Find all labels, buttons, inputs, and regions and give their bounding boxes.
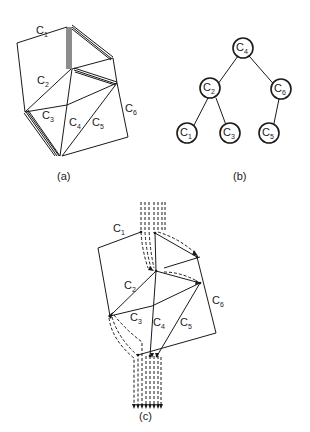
- label-c3: C3: [42, 109, 54, 123]
- label-c2: C2: [124, 279, 136, 293]
- tree-node-c6: C6: [271, 79, 291, 99]
- label-c4: C4: [153, 316, 165, 330]
- label-c3: C3: [130, 311, 142, 325]
- tree-node-c2: C2: [200, 78, 220, 98]
- edge-left: [17, 43, 25, 112]
- figure-canvas: C1 C2 C3 C4 C5 C6 (a) C4 C2 C6 C1: [0, 0, 310, 432]
- label-c1: C1: [113, 222, 125, 236]
- label-c4: C4: [69, 116, 81, 130]
- label-c6: C6: [212, 294, 224, 308]
- panel-c: C1 C2 C3 C4 C5 C6 (c): [98, 202, 224, 422]
- caption-c: (c): [139, 410, 152, 422]
- caption-b: (b): [233, 170, 246, 182]
- tree-node-c1: C1: [177, 123, 197, 143]
- label-c2: C2: [37, 74, 49, 88]
- panel-b: C4 C2 C6 C1 C3 C5 (b): [177, 38, 291, 182]
- label-c5: C5: [92, 116, 104, 130]
- tree-node-c4: C4: [233, 38, 253, 58]
- caption-a: (a): [57, 170, 70, 182]
- label-c6: C6: [125, 102, 137, 116]
- tree-node-c3: C3: [220, 123, 240, 143]
- label-c1: C1: [36, 24, 48, 38]
- label-c5: C5: [180, 316, 192, 330]
- panel-a: C1 C2 C3 C4 C5 C6 (a): [17, 24, 137, 182]
- tree-node-c5: C5: [259, 123, 279, 143]
- arrow-heads: [108, 250, 200, 409]
